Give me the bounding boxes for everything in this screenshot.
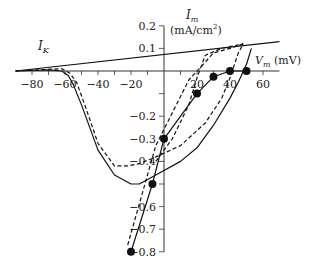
data-point — [210, 73, 218, 81]
x-tick-label: 60 — [256, 78, 270, 91]
y-tick-label: 0.2 — [139, 20, 157, 33]
data-point — [193, 90, 201, 98]
chart: −80−60−40−202040600.20.1−0.2−0.3−0.4−0.6… — [0, 0, 309, 272]
x-tick-label: −80 — [20, 78, 43, 91]
series-line — [16, 44, 244, 166]
x-axis-label: Vm (mV) — [255, 54, 301, 69]
y-axis-units: (mA/cm2) — [170, 23, 222, 37]
data-point — [226, 67, 234, 75]
y-tick-label: 0.1 — [139, 42, 157, 55]
data-point — [243, 67, 251, 75]
x-tick-label: −20 — [119, 78, 142, 91]
y-axis-label: Im — [186, 8, 198, 24]
y-tick-label: −0.4 — [129, 155, 156, 168]
y-tick-label: −0.6 — [129, 201, 156, 214]
y-tick-label: −0.2 — [129, 110, 156, 123]
y-tick-label: −0.3 — [129, 133, 156, 146]
data-point — [148, 180, 156, 188]
x-tick-label: −40 — [86, 78, 109, 91]
data-point — [127, 248, 135, 256]
ik-label: IK — [38, 39, 49, 55]
